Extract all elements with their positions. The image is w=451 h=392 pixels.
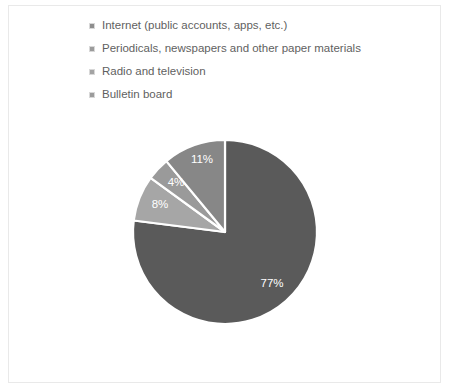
legend-item-bulletin-board[interactable]: Bulletin board (89, 83, 419, 106)
legend-item-radio-television[interactable]: Radio and television (89, 60, 419, 83)
legend-item-periodicals[interactable]: Periodicals, newspapers and other paper … (89, 37, 419, 60)
chart-legend: Internet (public accounts, apps, etc.) P… (89, 14, 419, 106)
legend-marker-internet (89, 23, 95, 29)
legend-marker-radio-television (89, 69, 95, 75)
legend-label-periodicals: Periodicals, newspapers and other paper … (102, 42, 361, 55)
legend-label-internet: Internet (public accounts, apps, etc.) (102, 19, 287, 32)
legend-label-radio-television: Radio and television (102, 65, 206, 78)
chart-frame: Internet (public accounts, apps, etc.) P… (8, 5, 441, 383)
legend-item-internet[interactable]: Internet (public accounts, apps, etc.) (89, 14, 419, 37)
legend-marker-periodicals (89, 46, 95, 52)
legend-label-bulletin-board: Bulletin board (102, 88, 172, 101)
legend-marker-bulletin-board (89, 92, 95, 98)
